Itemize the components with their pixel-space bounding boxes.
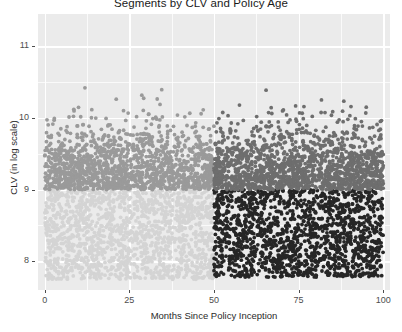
chart-title: Segments by CLV and Policy Age bbox=[0, 0, 402, 9]
y-tick-label: 10 bbox=[0, 112, 29, 122]
scatter-plot-figure: Segments by CLV and Policy Age CLV (in l… bbox=[0, 0, 402, 332]
x-tick-mark bbox=[299, 290, 300, 293]
y-tick-label: 9 bbox=[0, 184, 29, 194]
y-tick-mark bbox=[32, 46, 35, 47]
x-tick-mark bbox=[45, 290, 46, 293]
x-tick-mark bbox=[129, 290, 130, 293]
y-tick-label: 11 bbox=[0, 40, 29, 50]
y-tick-mark bbox=[32, 118, 35, 119]
x-tick-mark bbox=[383, 290, 384, 293]
y-tick-label: 8 bbox=[0, 255, 29, 265]
x-tick-label: 0 bbox=[25, 295, 65, 305]
x-tick-label: 75 bbox=[279, 295, 319, 305]
y-tick-mark bbox=[32, 190, 35, 191]
x-axis: 0255075100 bbox=[38, 290, 390, 310]
x-tick-mark bbox=[214, 290, 215, 293]
x-tick-label: 25 bbox=[109, 295, 149, 305]
x-axis-title: Months Since Policy Inception bbox=[38, 310, 390, 321]
plot-panel bbox=[38, 14, 390, 290]
scatter-points-layer bbox=[38, 14, 390, 290]
x-tick-label: 50 bbox=[194, 295, 234, 305]
y-tick-mark bbox=[32, 261, 35, 262]
y-axis: 891011 bbox=[0, 14, 35, 290]
x-tick-label: 100 bbox=[363, 295, 402, 305]
